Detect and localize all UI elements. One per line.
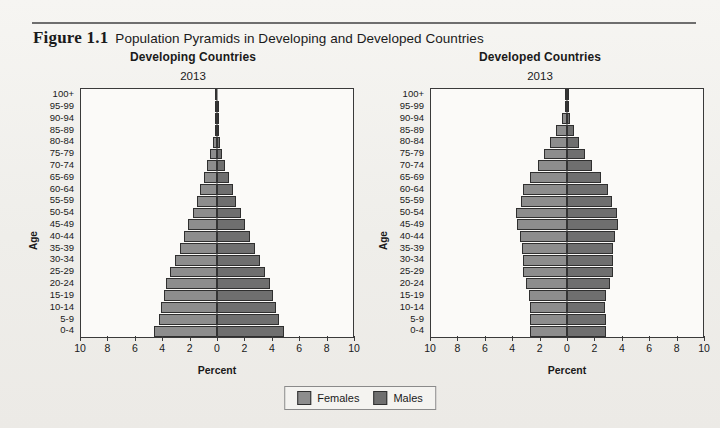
y-tick-label: 10-14 [22, 301, 78, 313]
y-tick-label: 100+ [22, 88, 78, 100]
x-tick-label: 8 [324, 342, 330, 354]
x-tick-label: 10 [74, 342, 86, 354]
bar-males [567, 125, 574, 136]
x-tick-label: 10 [424, 342, 436, 354]
bar-females [520, 231, 567, 242]
x-tick-mark [327, 336, 328, 341]
x-tick-label: 4 [269, 342, 275, 354]
bar-males [567, 314, 606, 325]
chart-year-developed: 2013 [368, 70, 712, 82]
y-tick-label: 60-64 [22, 182, 78, 194]
bar-females [522, 243, 567, 254]
y-tick-label: 10-14 [372, 301, 428, 313]
bar-females [159, 314, 217, 325]
bar-females [523, 255, 567, 266]
bar-males [217, 149, 222, 160]
bar-females [180, 243, 217, 254]
y-axis-ticklabels-developed: 0-45-910-1415-1920-2425-2930-3435-3940-4… [372, 88, 428, 336]
y-tick-label: 20-24 [372, 277, 428, 289]
bar-males [567, 302, 605, 313]
bar-males [217, 160, 225, 171]
x-tick-mark [704, 336, 705, 341]
y-tick-label: 55-59 [372, 194, 428, 206]
x-tick-mark [622, 336, 623, 341]
x-tick-label: 10 [348, 342, 360, 354]
bar-females [193, 208, 217, 219]
bar-males [567, 149, 585, 160]
chart-title-developed: Developed Countries [368, 50, 712, 64]
bar-males [567, 290, 606, 301]
y-tick-label: 95-99 [372, 100, 428, 112]
bar-males [217, 231, 250, 242]
bar-females [530, 302, 567, 313]
y-tick-label: 80-84 [372, 135, 428, 147]
y-tick-label: 20-24 [22, 277, 78, 289]
x-tick-label: 4 [159, 342, 165, 354]
y-tick-label: 40-44 [372, 230, 428, 242]
y-tick-label: 90-94 [372, 112, 428, 124]
bar-males [217, 326, 284, 337]
x-tick-mark [299, 336, 300, 341]
legend-label-females: Females [317, 392, 359, 404]
header-rule [32, 22, 696, 24]
bar-females [544, 149, 567, 160]
y-tick-label: 30-34 [22, 253, 78, 265]
bar-females [204, 172, 217, 183]
bar-males [217, 302, 276, 313]
y-tick-label: 70-74 [22, 159, 78, 171]
legend-swatch-females-icon [297, 391, 311, 405]
bar-females [164, 290, 217, 301]
x-tick-mark [512, 336, 513, 341]
bar-females [197, 196, 217, 207]
bar-males [567, 255, 613, 266]
x-tick-label: 6 [646, 342, 652, 354]
x-tick-label: 0 [564, 342, 570, 354]
x-tick-mark [457, 336, 458, 341]
x-axis-label-developing: Percent [80, 364, 354, 376]
y-tick-label: 85-89 [22, 123, 78, 135]
x-tick-label: 8 [104, 342, 110, 354]
x-axis-ticks-developed [430, 336, 704, 341]
bar-males [567, 208, 617, 219]
x-tick-mark [162, 336, 163, 341]
x-tick-mark [80, 336, 81, 341]
x-tick-label: 8 [454, 342, 460, 354]
y-tick-label: 35-39 [372, 242, 428, 254]
x-tick-label: 2 [591, 342, 597, 354]
x-tick-mark [217, 336, 218, 341]
bar-males [567, 278, 610, 289]
y-tick-label: 0-4 [372, 324, 428, 336]
y-tick-label: 25-29 [372, 265, 428, 277]
bar-females [170, 267, 217, 278]
y-tick-label: 15-19 [22, 289, 78, 301]
bar-males [217, 219, 245, 230]
bar-males [567, 243, 613, 254]
x-tick-mark [677, 336, 678, 341]
y-tick-label: 55-59 [22, 194, 78, 206]
bar-females [523, 267, 567, 278]
x-tick-label: 6 [296, 342, 302, 354]
bar-females [526, 278, 567, 289]
bar-males [567, 326, 606, 337]
x-tick-label: 8 [674, 342, 680, 354]
x-axis-ticks-developing [80, 336, 354, 341]
legend-label-males: Males [393, 392, 422, 404]
y-tick-label: 70-74 [372, 159, 428, 171]
y-tick-label: 65-69 [372, 171, 428, 183]
y-tick-label: 60-64 [372, 182, 428, 194]
x-tick-mark [567, 336, 568, 341]
x-tick-mark [354, 336, 355, 341]
bar-males [217, 243, 255, 254]
x-tick-label: 10 [698, 342, 710, 354]
x-tick-label: 4 [509, 342, 515, 354]
bar-males [567, 267, 613, 278]
bar-females [200, 184, 217, 195]
y-tick-label: 85-89 [372, 123, 428, 135]
y-tick-label: 65-69 [22, 171, 78, 183]
bar-males [217, 267, 265, 278]
x-tick-label: 2 [537, 342, 543, 354]
bar-females [154, 326, 217, 337]
y-tick-label: 30-34 [372, 253, 428, 265]
bar-females [517, 219, 567, 230]
chart-year-developing: 2013 [18, 70, 368, 82]
